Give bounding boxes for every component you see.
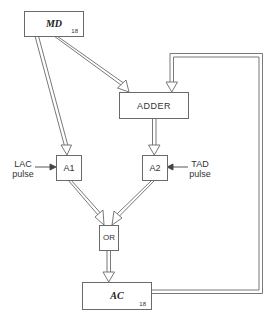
adder-label: ADDER [120,101,188,111]
or-gate: OR [99,225,119,251]
tad-text: TAD [186,159,214,169]
a1-to-or-arrow [68,180,104,225]
a2-to-or-arrow [112,180,155,225]
tad-pulse-arrow [167,164,188,170]
diagram-connections [0,0,272,319]
adder-to-a2-arrow [149,118,161,155]
lac-pulse-text: pulse [10,169,36,179]
or-label: OR [100,233,118,242]
ac-bit-count: 18 [139,301,146,307]
a2-gate: A2 [142,155,168,181]
tad-pulse-label: TAD pulse [186,159,214,179]
ac-label: AC [83,290,151,301]
md-to-a1-arrow [35,36,72,155]
md-bit-count: 18 [71,28,78,34]
lac-text: LAC [10,159,36,169]
ac-register: AC 18 [82,282,152,310]
a1-label: A1 [57,163,81,173]
or-to-ac-arrow [103,250,115,282]
tad-pulse-text: pulse [186,169,214,179]
md-register: MD 18 [24,11,84,37]
adder-block: ADDER [119,92,189,119]
lac-pulse-label: LAC pulse [10,159,36,179]
a2-label: A2 [143,163,167,173]
lac-pulse-arrow [35,164,56,170]
md-to-adder-arrow [54,36,129,92]
a1-gate: A1 [56,155,82,181]
